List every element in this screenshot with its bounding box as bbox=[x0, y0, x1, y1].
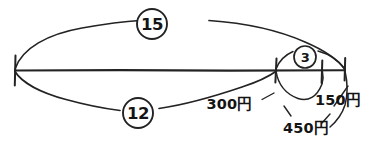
diagram-canvas: 15 12 3 300円 450円 150円 bbox=[0, 0, 378, 142]
price-label-150: 150円 bbox=[315, 92, 360, 108]
price-label-300: 300円 bbox=[206, 96, 251, 112]
horizontal-base-line bbox=[15, 70, 345, 71]
bubble-15-label: 15 bbox=[141, 15, 163, 34]
bubble-12-label: 12 bbox=[127, 104, 149, 123]
price-label-450: 450円 bbox=[283, 120, 328, 136]
bubble-3-label: 3 bbox=[301, 50, 310, 65]
arc-top-3-left bbox=[276, 52, 293, 70]
bubble-12: 12 bbox=[123, 98, 153, 128]
bubble-3: 3 bbox=[294, 46, 316, 68]
arc-top-15-left bbox=[15, 21, 140, 70]
arc-bottom-12-left bbox=[15, 72, 120, 111]
leader-line-300 bbox=[262, 93, 274, 100]
bubble-15: 15 bbox=[137, 9, 167, 39]
leader-line-450 bbox=[284, 106, 291, 116]
tick-left-end bbox=[15, 56, 16, 86]
line-segment-diagram: 15 12 3 300円 450円 150円 bbox=[0, 0, 378, 142]
